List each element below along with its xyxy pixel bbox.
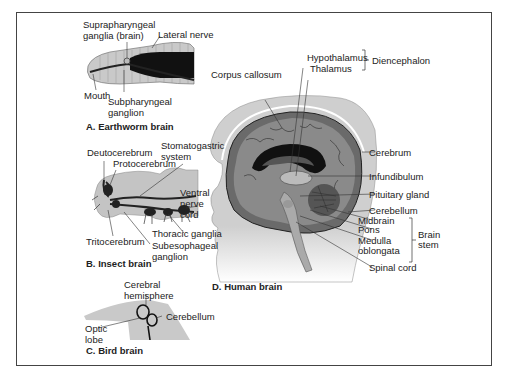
label-optic-line2: lobe [85, 334, 103, 345]
label-diencephalon: Diencephalon [372, 55, 430, 66]
label-infundibulum: Infundibulum [369, 171, 423, 182]
label-brain-stem-line2: stem [418, 239, 439, 250]
label-optic-line1: Optic [85, 323, 107, 334]
label-spinal-cord: Spinal cord [369, 262, 417, 273]
label-thoracic-ganglia: Thoracic ganglia [152, 228, 222, 239]
caption-bird: C. Bird brain [86, 345, 143, 356]
label-subpharyngeal-line2: ganglion [108, 107, 144, 118]
label-deutocerebrum: Deutocerebrum [87, 147, 152, 158]
label-stomatogastric-line2: system [161, 151, 191, 162]
label-stomatogastric-line1: Stomatogastric [161, 140, 224, 151]
label-bird-cerebellum: Cerebellum [166, 311, 215, 322]
illustration-canvas [0, 0, 507, 380]
label-lateral-nerve: Lateral nerve [158, 29, 213, 40]
label-mouth: Mouth [84, 90, 110, 101]
label-medulla-line2: oblongata [358, 245, 400, 256]
label-pituitary-gland: Pituitary gland [369, 189, 429, 200]
label-ventral-line2: nerve [180, 198, 204, 209]
label-hypothalamus: Hypothalamus [307, 52, 368, 63]
earthworm-drawing [87, 36, 194, 92]
label-subesophageal-line1: Subesophageal [152, 240, 218, 251]
label-corpus-callosum: Corpus callosum [211, 69, 282, 80]
caption-human: D. Human brain [212, 281, 282, 292]
label-suprapharyngeal-line2: ganglia (brain) [83, 30, 144, 41]
label-ventral-line1: Ventral [180, 187, 210, 198]
caption-insect: B. Insect brain [86, 258, 151, 269]
caption-earthworm: A. Earthworm brain [86, 121, 174, 132]
label-ventral-line3: cord [180, 209, 198, 220]
label-subpharyngeal-line1: Subpharyngeal [108, 96, 172, 107]
label-tritocerebrum: Tritocerebrum [86, 236, 145, 247]
label-subesophageal-line2: ganglion [152, 251, 188, 262]
label-cerebral-line1: Cerebral [124, 279, 160, 290]
label-pons: Pons [358, 224, 380, 235]
label-thalamus: Thalamus [310, 63, 352, 74]
label-cerebral-line2: hemisphere [124, 290, 174, 301]
label-suprapharyngeal-line1: Suprapharyngeal [83, 19, 155, 30]
label-cerebrum: Cerebrum [369, 147, 411, 158]
